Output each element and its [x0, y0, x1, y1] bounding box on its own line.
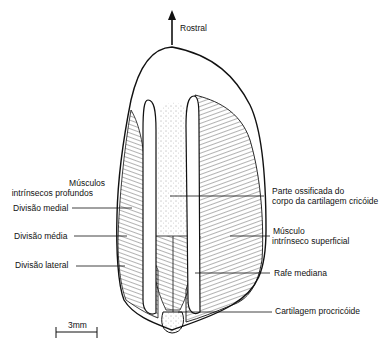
rostral-label: Rostral [180, 23, 207, 33]
larynx-illustration [0, 0, 389, 349]
superficial-muscle-label-line2: intrínseco superficial [272, 236, 349, 246]
scale-bar-label: 3mm [68, 320, 87, 330]
procricoid-cartilage-label: Cartilagem procricóide [275, 306, 360, 316]
median-raphe-label: Rafe mediana [274, 268, 327, 278]
rostral-arrow-icon [168, 10, 176, 45]
deep-muscles-label-line2: intrínsecos profundos [0, 188, 93, 198]
ossified-cricoid-label-line2: corpo da cartilagem cricóide [272, 196, 378, 206]
larynx-diagram: Rostral Músculos intrínsecos profundos D… [0, 0, 389, 349]
middle-division-label: Divisão média [14, 231, 67, 241]
ossified-cricoid-label-line1: Parte ossificada do [272, 186, 344, 196]
deep-muscles-label-line1: Músculos [20, 178, 105, 188]
superficial-muscle-label-line1: Músculo [273, 226, 305, 236]
medial-division-label: Divisão medial [13, 203, 68, 213]
lateral-division-label: Divisão lateral [15, 260, 68, 270]
